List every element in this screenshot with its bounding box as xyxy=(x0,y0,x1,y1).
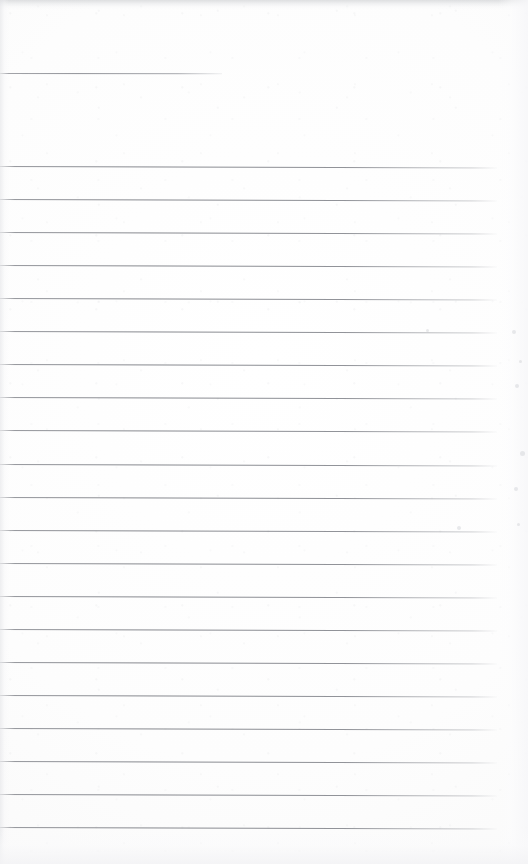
ruled-lines-layer xyxy=(0,0,528,864)
rule-line xyxy=(0,265,497,267)
rule-line xyxy=(0,563,497,565)
scan-speck xyxy=(517,523,520,526)
rule-line xyxy=(0,530,497,532)
rule-line xyxy=(0,596,497,598)
rule-line xyxy=(0,430,497,432)
header-rule-line xyxy=(0,73,222,74)
scan-speck xyxy=(512,330,516,334)
scan-speck xyxy=(520,451,525,456)
rule-line xyxy=(0,761,497,763)
rule-line xyxy=(0,827,497,829)
rule-line xyxy=(0,662,497,664)
rule-line xyxy=(0,331,497,333)
rule-line xyxy=(0,397,497,399)
rule-line xyxy=(0,298,497,300)
scan-speck xyxy=(515,384,519,388)
rule-line xyxy=(0,166,497,168)
rule-line xyxy=(0,364,497,366)
scan-speck xyxy=(514,487,518,491)
scanned-page xyxy=(0,0,528,864)
rule-line xyxy=(0,464,497,466)
rule-line xyxy=(0,794,497,796)
rule-line xyxy=(0,728,497,730)
scan-speck xyxy=(457,526,461,530)
rule-line xyxy=(0,629,497,631)
scan-speck xyxy=(519,360,522,363)
rule-line xyxy=(0,232,497,234)
scan-speck xyxy=(426,329,429,332)
rule-line xyxy=(0,199,497,201)
rule-line xyxy=(0,695,497,697)
rule-line xyxy=(0,497,497,499)
